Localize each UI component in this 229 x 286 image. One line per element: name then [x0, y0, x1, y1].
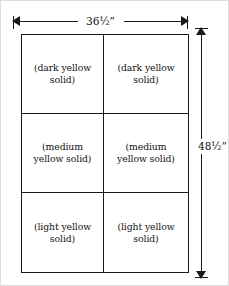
cell-label-line2: solid) — [34, 74, 91, 86]
cell-label-line1: (medium — [34, 141, 92, 153]
panel-cell-r3c1: (light yellow solid) — [22, 193, 104, 272]
cell-text-block: (light yellow solid) — [34, 221, 91, 244]
arrow-up-icon — [196, 27, 206, 35]
cell-text-block: (light yellow solid) — [117, 221, 174, 244]
cell-label-line1: (light yellow — [34, 221, 91, 233]
cell-label-line2: yellow solid) — [117, 153, 175, 165]
arrow-right-icon — [181, 16, 189, 26]
cell-label-line1: (dark yellow — [34, 62, 91, 74]
cell-text-block: (medium yellow solid) — [34, 141, 92, 164]
panel-cell-r2c2: (medium yellow solid) — [104, 114, 188, 193]
arrow-down-icon — [196, 271, 206, 279]
cell-label-line1: (light yellow — [117, 221, 174, 233]
height-dimension-label: 48½” — [197, 139, 227, 154]
cell-label-line2: solid) — [117, 74, 174, 86]
panel-cell-r3c2: (light yellow solid) — [104, 193, 188, 272]
cell-label-line2: solid) — [117, 233, 174, 245]
fabric-panel: (dark yellow solid) (dark yellow solid) … — [21, 34, 189, 273]
panel-cell-r1c2: (dark yellow solid) — [104, 35, 188, 114]
panel-cell-r1c1: (dark yellow solid) — [22, 35, 104, 114]
panel-cell-r2c1: (medium yellow solid) — [22, 114, 104, 193]
cell-text-block: (medium yellow solid) — [117, 141, 175, 164]
cell-text-block: (dark yellow solid) — [117, 62, 174, 85]
cell-label-line2: solid) — [34, 233, 91, 245]
width-dimension: 36½” — [12, 15, 189, 29]
width-dimension-label: 36½” — [78, 14, 124, 28]
diagram-canvas: 36½” (dark yellow solid) (dark yellow so… — [0, 0, 229, 286]
cell-label-line1: (medium — [117, 141, 175, 153]
cell-label-line2: yellow solid) — [34, 153, 92, 165]
width-whole-number: 36½” — [86, 15, 115, 27]
cell-label-line1: (dark yellow — [117, 62, 174, 74]
arrow-left-icon — [12, 16, 20, 26]
cell-text-block: (dark yellow solid) — [34, 62, 91, 85]
